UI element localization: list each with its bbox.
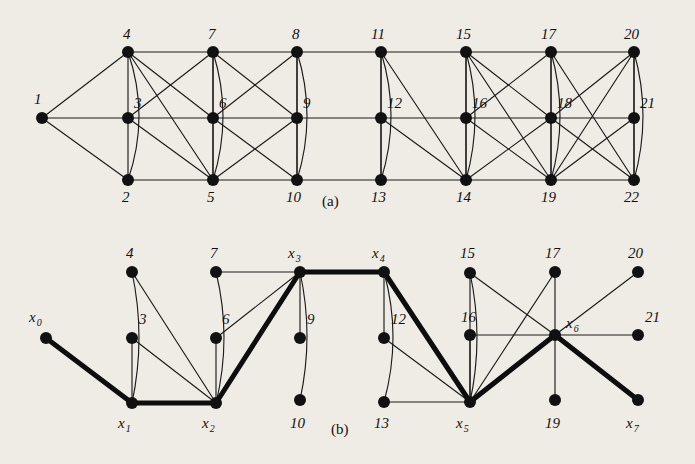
- graph-node[interactable]: [126, 397, 138, 409]
- graph-node[interactable]: [375, 112, 387, 124]
- edge: [42, 52, 128, 118]
- graph-node[interactable]: [122, 174, 134, 186]
- node-label-subscript: 6: [574, 323, 579, 334]
- node-label: 6: [222, 311, 230, 327]
- path-edge: [470, 335, 555, 402]
- node-label: x7: [625, 415, 640, 434]
- graph-node[interactable]: [294, 394, 306, 406]
- node-label: 5: [207, 189, 215, 205]
- graph-node[interactable]: [545, 112, 557, 124]
- node-label-subscript: 3: [295, 253, 301, 264]
- graph-node[interactable]: [210, 332, 222, 344]
- node-label: 9: [307, 311, 315, 327]
- graph-node[interactable]: [549, 394, 561, 406]
- graph-node[interactable]: [291, 112, 303, 124]
- node-label: 14: [456, 189, 472, 205]
- graph-node[interactable]: [210, 397, 222, 409]
- graph-node[interactable]: [207, 112, 219, 124]
- node-label: 10: [290, 415, 306, 431]
- node-label-subscript: 1: [126, 423, 131, 434]
- graph-node[interactable]: [632, 329, 644, 341]
- graph-node[interactable]: [207, 174, 219, 186]
- node-label: 1: [34, 91, 42, 107]
- node-label: 12: [391, 311, 407, 327]
- edge: [470, 272, 555, 402]
- graph-node[interactable]: [126, 332, 138, 344]
- graph-node[interactable]: [632, 394, 644, 406]
- graph-node[interactable]: [378, 266, 390, 278]
- node-label: 6: [219, 95, 227, 111]
- graph-node[interactable]: [628, 46, 640, 58]
- graph-node[interactable]: [549, 266, 561, 278]
- edge: [381, 118, 466, 180]
- node-label: 7: [208, 26, 217, 42]
- graph-node[interactable]: [378, 396, 390, 408]
- node-label: 13: [374, 415, 389, 431]
- node-label: 2: [122, 189, 130, 205]
- panel-b: x0x1x2x3x4x5x6x734679101213151617192021: [28, 245, 660, 434]
- panel-a: 12345678910111213141516171819202122: [34, 26, 655, 205]
- node-label-subscript: 0: [37, 317, 42, 328]
- graph-node[interactable]: [291, 174, 303, 186]
- graph-node[interactable]: [294, 332, 306, 344]
- graph-node[interactable]: [545, 174, 557, 186]
- graph-node[interactable]: [460, 112, 472, 124]
- node-label: 15: [460, 245, 476, 261]
- graph-node[interactable]: [464, 267, 476, 279]
- graph-node[interactable]: [460, 174, 472, 186]
- path-edge: [216, 272, 300, 403]
- node-label: 16: [461, 309, 477, 325]
- node-label: 19: [541, 189, 557, 205]
- path-edge: [46, 338, 132, 403]
- node-label: 20: [628, 245, 644, 261]
- node-label: x0: [28, 309, 42, 328]
- node-label-subscript: 4: [380, 253, 385, 264]
- figure-container: 12345678910111213141516171819202122 x0x1…: [0, 0, 695, 464]
- edge: [470, 273, 555, 335]
- graph-node[interactable]: [210, 266, 222, 278]
- graph-node[interactable]: [207, 46, 219, 58]
- graph-node[interactable]: [464, 329, 476, 341]
- graph-node[interactable]: [549, 329, 561, 341]
- node-label: x3: [287, 245, 301, 264]
- graph-node[interactable]: [628, 112, 640, 124]
- edge: [381, 52, 466, 180]
- graph-node[interactable]: [291, 46, 303, 58]
- node-label: 8: [292, 26, 300, 42]
- node-label: 3: [133, 95, 142, 111]
- graph-node[interactable]: [375, 174, 387, 186]
- edge: [128, 118, 213, 180]
- node-label: 17: [541, 26, 558, 42]
- edge: [42, 118, 128, 180]
- graph-node[interactable]: [294, 266, 306, 278]
- node-label: 9: [303, 95, 311, 111]
- graph-node[interactable]: [545, 46, 557, 58]
- graph-node[interactable]: [126, 266, 138, 278]
- graph-node[interactable]: [122, 46, 134, 58]
- node-label: 21: [645, 309, 660, 325]
- graph-node[interactable]: [36, 112, 48, 124]
- node-label: 10: [286, 189, 302, 205]
- node-label: x6: [565, 315, 579, 334]
- graph-node[interactable]: [628, 174, 640, 186]
- graph-node[interactable]: [460, 46, 472, 58]
- graph-node[interactable]: [632, 266, 644, 278]
- node-label: 17: [545, 245, 562, 261]
- graph-node[interactable]: [40, 332, 52, 344]
- node-label: 13: [371, 189, 386, 205]
- path-edge: [384, 272, 470, 402]
- node-label: 20: [624, 26, 640, 42]
- graph-node[interactable]: [122, 112, 134, 124]
- graph-node[interactable]: [464, 396, 476, 408]
- node-label: 4: [123, 26, 131, 42]
- node-label: 22: [624, 189, 640, 205]
- node-label: 16: [472, 95, 488, 111]
- node-label-subscript: 2: [210, 423, 215, 434]
- node-label-subscript: 5: [464, 423, 469, 434]
- node-label: 15: [456, 26, 472, 42]
- graph-node[interactable]: [378, 332, 390, 344]
- graph-figure-svg: 12345678910111213141516171819202122 x0x1…: [0, 0, 695, 464]
- graph-node[interactable]: [375, 46, 387, 58]
- edge: [128, 52, 213, 180]
- node-label: x5: [455, 415, 469, 434]
